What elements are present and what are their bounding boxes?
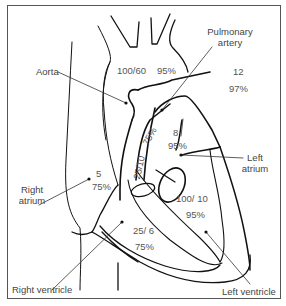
label-left-atrium-line2: atrium <box>240 163 270 174</box>
label-right-ventricle: Right ventricle <box>12 284 72 295</box>
aorta-saturation: 95% <box>157 65 176 76</box>
right-ventricle-pressure: 25/ 6 <box>133 225 154 236</box>
label-left-ventricle: Left ventricle <box>222 286 276 297</box>
left-atrium-saturation: 95% <box>168 140 187 151</box>
left-ventricle-pressure: 100/ 10 <box>176 193 208 204</box>
label-right-atrium-line2: atrium <box>14 195 50 206</box>
label-right-atrium-line1: Right <box>14 184 50 195</box>
label-pulmonary-artery: Pulmonary artery <box>200 26 260 48</box>
right-atrium-saturation: 75% <box>92 181 111 192</box>
pulmonary-vein-pressure: 12 <box>233 66 244 77</box>
label-pulmonary-artery-line1: Pulmonary <box>200 26 260 37</box>
body-outline <box>66 26 118 290</box>
label-pulmonary-artery-line2: artery <box>200 37 260 48</box>
right-atrium-pressure: 5 <box>96 168 101 179</box>
label-left-atrium-line1: Left <box>240 152 270 163</box>
left-ventricle-saturation: 95% <box>186 209 205 220</box>
great-vessels <box>120 72 220 200</box>
label-right-atrium: Right atrium <box>14 184 50 206</box>
label-left-atrium: Left atrium <box>240 152 270 174</box>
label-aorta: Aorta <box>36 66 59 77</box>
pulmonary-vein-saturation: 97% <box>229 83 248 94</box>
neck-vessels <box>111 14 188 72</box>
right-ventricle-saturation: 75% <box>135 241 154 252</box>
aorta-pressure: 100/60 <box>117 65 146 76</box>
left-atrium-pressure: 8 <box>173 127 178 138</box>
